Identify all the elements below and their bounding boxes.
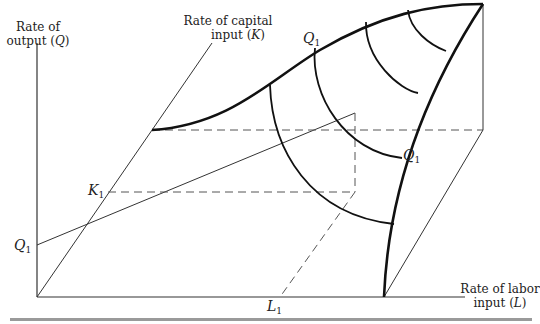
q1-left-label: Q1 — [14, 238, 31, 257]
k1-label: K1 — [88, 183, 104, 202]
output-axis-label: Rate of output (Q) — [5, 20, 71, 48]
isoquant-1 — [270, 85, 394, 224]
isoquant-3 — [366, 22, 418, 93]
capital-axis-label: Rate of capital input (K) — [173, 14, 283, 42]
l1-dashed — [280, 192, 355, 297]
labor-axis-label-line1: Rate of labor — [460, 282, 540, 296]
surface-right-edge — [384, 4, 483, 297]
capital-axis-label-line1: Rate of capital — [173, 14, 283, 28]
isoquant-2 — [315, 48, 402, 158]
labor-axis-label: Rate of labor input (L) — [460, 282, 540, 310]
q1-top-label: Q1 — [303, 31, 320, 50]
q1-right-label: Q1 — [403, 148, 420, 167]
output-axis-label-line2: output (Q) — [5, 34, 71, 48]
output-axis-label-line1: Rate of — [5, 20, 71, 34]
q1-ray — [37, 113, 355, 245]
production-surface-diagram — [0, 0, 540, 324]
isoquant-4 — [408, 10, 446, 51]
l1-label: L1 — [267, 299, 282, 318]
right-diagonal — [384, 130, 483, 297]
capital-axis — [37, 43, 212, 297]
capital-axis-label-line2: input (K) — [173, 28, 283, 42]
bottom-rule — [10, 318, 532, 321]
labor-axis-label-line2: input (L) — [460, 296, 540, 310]
